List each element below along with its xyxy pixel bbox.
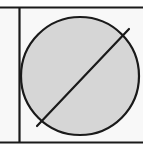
geometric-diagram xyxy=(0,0,143,149)
geometric-figure-canvas xyxy=(0,0,143,149)
shaded-circle xyxy=(21,17,139,135)
